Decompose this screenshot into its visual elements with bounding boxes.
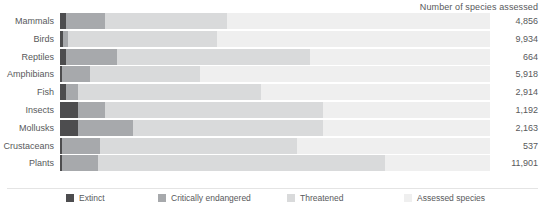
stacked-bar[interactable]	[60, 66, 490, 82]
row-total-value: 4,856	[515, 13, 538, 29]
stacked-bar[interactable]	[60, 13, 490, 29]
bar-segment-threatened[interactable]	[90, 66, 200, 82]
chart-row: Amphibians5,918	[0, 66, 545, 82]
category-label-plants: Plants	[0, 155, 54, 171]
bar-segment-extinct[interactable]	[60, 102, 78, 118]
stacked-bar[interactable]	[60, 84, 490, 100]
bar-segment-threatened[interactable]	[68, 31, 217, 47]
legend-swatch-critically-endangered	[158, 194, 166, 202]
stacked-bar[interactable]	[60, 138, 490, 154]
bar-segment-assessed-species[interactable]	[310, 49, 490, 65]
bar-segment-threatened[interactable]	[105, 13, 227, 29]
bar-segment-assessed-species[interactable]	[217, 31, 490, 47]
legend-label-threatened: Threatened	[300, 193, 343, 203]
row-total-value: 9,934	[515, 31, 538, 47]
bar-segment-assessed-species[interactable]	[200, 66, 490, 82]
category-label-birds: Birds	[0, 31, 54, 47]
stacked-bar[interactable]	[60, 120, 490, 136]
chart-row: Fish2,914	[0, 84, 545, 100]
bar-segment-critically-endangered[interactable]	[62, 155, 98, 171]
species-assessment-chart: Number of species assessed Mammals4,856B…	[0, 0, 545, 211]
bar-segment-assessed-species[interactable]	[323, 102, 490, 118]
category-label-mollusks: Mollusks	[0, 120, 54, 136]
row-total-value: 2,163	[515, 120, 538, 136]
bar-segment-assessed-species[interactable]	[227, 13, 490, 29]
bar-segment-threatened[interactable]	[117, 49, 310, 65]
bar-segment-critically-endangered[interactable]	[66, 84, 78, 100]
chart-row: Plants11,901	[0, 155, 545, 171]
bar-segment-assessed-species[interactable]	[323, 120, 490, 136]
category-label-fish: Fish	[0, 84, 54, 100]
bar-segment-threatened[interactable]	[105, 102, 323, 118]
chart-row: Crustaceans537	[0, 138, 545, 154]
plot-area: Mammals4,856Birds9,934Reptiles664Amphibi…	[0, 13, 545, 185]
category-label-insects: Insects	[0, 102, 54, 118]
legend-item-extinct[interactable]: Extinct	[66, 193, 105, 203]
bar-segment-assessed-species[interactable]	[261, 84, 490, 100]
bar-segment-extinct[interactable]	[60, 120, 78, 136]
bar-segment-threatened[interactable]	[100, 138, 297, 154]
chart-legend: Extinct Critically endangered Threatened…	[0, 188, 545, 208]
bar-segment-critically-endangered[interactable]	[62, 138, 100, 154]
chart-row: Mammals4,856	[0, 13, 545, 29]
row-total-value: 1,192	[515, 102, 538, 118]
legend-item-assessed-species[interactable]: Assessed species	[404, 193, 485, 203]
legend-swatch-assessed-species	[404, 194, 412, 202]
bar-segment-threatened[interactable]	[98, 155, 385, 171]
chart-row: Birds9,934	[0, 31, 545, 47]
category-label-reptiles: Reptiles	[0, 49, 54, 65]
legend-label-critically-endangered: Critically endangered	[171, 193, 251, 203]
row-total-value: 5,918	[515, 66, 538, 82]
legend-divider	[7, 188, 538, 189]
stacked-bar[interactable]	[60, 155, 490, 171]
bar-segment-threatened[interactable]	[133, 120, 323, 136]
chart-row: Insects1,192	[0, 102, 545, 118]
legend-label-extinct: Extinct	[79, 193, 105, 203]
chart-row: Reptiles664	[0, 49, 545, 65]
bar-segment-assessed-species[interactable]	[297, 138, 490, 154]
legend-swatch-threatened	[287, 194, 295, 202]
row-total-value: 664	[523, 49, 538, 65]
bar-segment-critically-endangered[interactable]	[66, 49, 117, 65]
legend-item-critically-endangered[interactable]: Critically endangered	[158, 193, 251, 203]
chart-header-title: Number of species assessed	[420, 2, 538, 12]
bar-segment-critically-endangered[interactable]	[66, 13, 105, 29]
bar-segment-critically-endangered[interactable]	[62, 66, 90, 82]
category-label-amphibians: Amphibians	[0, 66, 54, 82]
bar-segment-critically-endangered[interactable]	[78, 102, 105, 118]
row-total-value: 11,901	[511, 155, 538, 171]
category-label-mammals: Mammals	[0, 13, 54, 29]
legend-swatch-extinct	[66, 194, 74, 202]
row-total-value: 537	[523, 138, 538, 154]
category-label-crustaceans: Crustaceans	[0, 138, 54, 154]
legend-item-threatened[interactable]: Threatened	[287, 193, 343, 203]
row-total-value: 2,914	[515, 84, 538, 100]
stacked-bar[interactable]	[60, 49, 490, 65]
row-divider	[60, 171, 490, 172]
stacked-bar[interactable]	[60, 31, 490, 47]
bar-segment-threatened[interactable]	[78, 84, 261, 100]
chart-row: Mollusks2,163	[0, 120, 545, 136]
legend-label-assessed-species: Assessed species	[417, 193, 485, 203]
bar-segment-critically-endangered[interactable]	[78, 120, 133, 136]
stacked-bar[interactable]	[60, 102, 490, 118]
bar-segment-assessed-species[interactable]	[385, 155, 490, 171]
